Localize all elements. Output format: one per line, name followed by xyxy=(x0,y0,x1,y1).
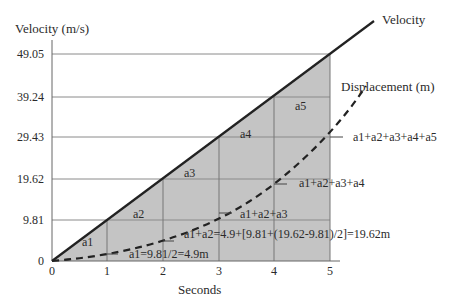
annotation-a1-a4: a1+a2+a3+a4 xyxy=(299,177,365,189)
x-tick-label: 1 xyxy=(97,265,117,277)
region-label-a3: a3 xyxy=(184,167,195,179)
displacement-series-label: Displacement (m) xyxy=(341,80,435,93)
annotation-a1-a2: a1+a2=4.9+[9.81+(19.62-9.81)/2]=19.62m xyxy=(184,228,390,240)
region-label-a2: a2 xyxy=(133,208,144,220)
x-tick-label: 0 xyxy=(42,265,62,277)
x-tick-label: 3 xyxy=(209,265,229,277)
y-tick-label: 19.62 xyxy=(4,173,44,185)
region-label-a5: a5 xyxy=(295,100,306,112)
velocity-displacement-chart xyxy=(0,0,454,304)
x-axis-label: Seconds xyxy=(178,283,221,296)
x-tick-label: 4 xyxy=(264,265,284,277)
velocity-series-label: Velocity xyxy=(382,13,425,26)
region-label-a1: a1 xyxy=(82,236,93,248)
y-tick-label: 29.43 xyxy=(4,131,44,143)
region-label-a4: a4 xyxy=(240,128,251,140)
y-axis-label: Velocity (m/s) xyxy=(15,22,89,35)
x-tick-label: 2 xyxy=(153,265,173,277)
y-tick-label: 9.81 xyxy=(4,214,44,226)
annotation-a1: a1=9.81/2=4.9m xyxy=(129,248,209,260)
y-tick-label: 39.24 xyxy=(4,91,44,103)
annotation-a1-a3: a1+a2+a3 xyxy=(240,208,288,220)
y-tick-label: 0 xyxy=(4,255,44,267)
y-tick-label: 49.05 xyxy=(4,48,44,60)
annotation-a1-a5: a1+a2+a3+a4+a5 xyxy=(353,131,437,143)
x-tick-label: 5 xyxy=(320,265,340,277)
